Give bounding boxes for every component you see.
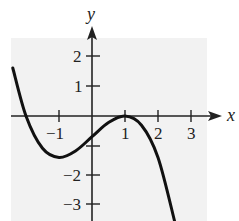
x-tick-label: −1	[46, 124, 64, 143]
x-tick-label: 1	[121, 124, 130, 143]
cubic-function-graph: x y −1 1 2 3 2 1 −2 −3	[0, 0, 239, 221]
y-tick-label: −3	[63, 195, 81, 214]
x-axis-label: x	[226, 105, 235, 125]
plot-background	[11, 38, 207, 221]
x-tick-label: 3	[187, 124, 196, 143]
y-tick-label: 1	[74, 77, 83, 96]
y-axis-label: y	[85, 4, 95, 24]
y-tick-label: 2	[73, 47, 82, 66]
x-tick-label: 2	[154, 124, 163, 143]
y-tick-label: −2	[63, 166, 81, 185]
